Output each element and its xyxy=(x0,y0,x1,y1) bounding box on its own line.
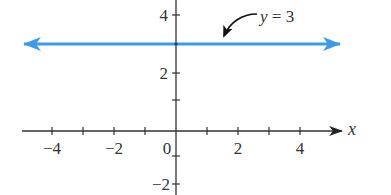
x-tick-label-neg4: −4 xyxy=(43,139,62,158)
annotation-rest: = 3 xyxy=(268,7,295,26)
annotation-label: y = 3 xyxy=(258,7,294,26)
x-tick-label-4: 4 xyxy=(296,139,305,158)
y-tick-label-4: 4 xyxy=(160,6,169,25)
y-intercept-point xyxy=(174,42,177,45)
series-line-y-equals-3 xyxy=(24,42,340,45)
annotation-arrow-icon xyxy=(224,14,257,36)
y-tick-label-2: 2 xyxy=(160,64,169,83)
y-axis: 4 2 −2 xyxy=(152,0,180,195)
x-axis-label: x xyxy=(347,119,356,139)
y-tick-label-neg2: −2 xyxy=(152,175,170,194)
annotation-y-equals-3: y = 3 xyxy=(224,7,294,36)
x-tick-label-2: 2 xyxy=(234,139,243,158)
x-tick-label-0: 0 xyxy=(163,139,172,158)
x-tick-label-neg2: −2 xyxy=(105,139,123,158)
x-axis: −4 −2 0 2 4 x xyxy=(22,119,356,158)
graph-y-equals-3: −4 −2 0 2 4 x 4 2 −2 y = 3 xyxy=(0,0,391,195)
